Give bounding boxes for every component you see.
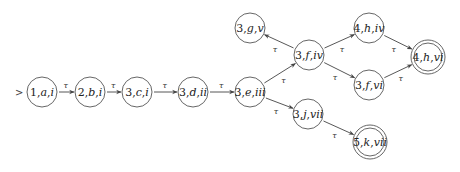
transition-label: τ bbox=[273, 45, 278, 54]
state-label: 3,f,vi bbox=[355, 79, 383, 92]
state-label: 3,e,iii bbox=[234, 86, 265, 99]
transition-edge: τ bbox=[324, 63, 354, 83]
state-diagram: ττττττττττττ 1,a,i2,b,i3,c,i3,d,ii3,e,ii… bbox=[0, 0, 460, 172]
state-label: 2,b,i bbox=[78, 86, 103, 99]
transition-label: τ bbox=[111, 81, 116, 90]
state-label: 5,k,vii bbox=[353, 136, 387, 149]
state-node: 3,e,iii bbox=[234, 77, 265, 107]
transition-label: τ bbox=[332, 131, 337, 140]
transition-label: τ bbox=[281, 76, 286, 85]
transition-edge: τ bbox=[264, 64, 295, 86]
state-label: 3,c,i bbox=[125, 86, 149, 99]
state-node: 3,g,v bbox=[235, 13, 265, 43]
state-label: 3,g,v bbox=[236, 22, 264, 35]
transition-label: τ bbox=[398, 74, 403, 83]
transition-label: τ bbox=[340, 45, 345, 54]
arrow-icon bbox=[323, 121, 353, 135]
transition-label: τ bbox=[64, 81, 69, 90]
state-node: 2,b,i bbox=[75, 77, 105, 107]
transition-edge: τ bbox=[59, 81, 74, 92]
arrow-icon bbox=[265, 35, 294, 48]
state-node: 3,j,vii bbox=[293, 99, 324, 129]
state-node: 3,f,vi bbox=[354, 70, 384, 100]
transition-edge: τ bbox=[210, 81, 234, 92]
state-label: 4,h,vi bbox=[413, 51, 444, 64]
state-label: 1,a,i bbox=[30, 86, 54, 99]
transition-edge: τ bbox=[384, 35, 412, 54]
nodes-layer: 1,a,i2,b,i3,c,i3,d,ii3,e,iii3,g,v3,f,iv4… bbox=[27, 13, 445, 159]
state-label: 4,h,iv bbox=[354, 22, 386, 35]
transition-edge: τ bbox=[107, 81, 121, 92]
state-node: 3,c,i bbox=[122, 77, 152, 107]
transition-label: τ bbox=[219, 81, 224, 90]
arrow-icon bbox=[264, 64, 295, 83]
transition-label: τ bbox=[333, 73, 338, 82]
transition-label: τ bbox=[392, 45, 397, 54]
state-label: 3,f,iv bbox=[295, 49, 324, 62]
svg-text:>: > bbox=[15, 87, 23, 98]
transition-label: τ bbox=[163, 81, 168, 90]
state-node: 1,a,i bbox=[27, 77, 57, 107]
transition-edge: τ bbox=[384, 65, 411, 84]
state-node: 4,h,iv bbox=[354, 13, 386, 43]
accepting-state-node: 4,h,vi bbox=[411, 40, 445, 74]
transition-edge: τ bbox=[323, 121, 353, 140]
transition-edge: τ bbox=[266, 98, 293, 116]
transition-edge: τ bbox=[325, 35, 355, 54]
state-node: 3,f,iv bbox=[294, 40, 324, 70]
transition-edge: τ bbox=[265, 35, 294, 54]
state-label: 3,d,ii bbox=[179, 86, 207, 99]
transition-label: τ bbox=[274, 107, 279, 116]
accepting-state-node: 5,k,vii bbox=[353, 125, 387, 159]
state-node: 3,d,ii bbox=[178, 77, 208, 107]
state-label: 3,j,vii bbox=[293, 108, 324, 121]
transition-edge: τ bbox=[154, 81, 177, 92]
arrow-icon bbox=[266, 98, 293, 108]
start-marker: > bbox=[15, 87, 23, 98]
arrow-icon bbox=[324, 63, 354, 78]
arrow-icon bbox=[384, 35, 412, 49]
